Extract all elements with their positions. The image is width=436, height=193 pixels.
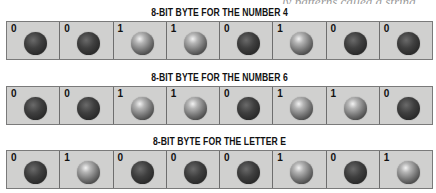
bit-ball-icon — [397, 97, 420, 120]
bit-value: 0 — [11, 89, 17, 99]
byte-caption: 8-BIT BYTE FOR THE NUMBER 4 — [36, 7, 403, 18]
bit-cell: 1 — [273, 87, 326, 124]
bit-value: 0 — [224, 89, 230, 99]
bit-ball-icon — [344, 161, 367, 184]
bit-value: 1 — [331, 89, 337, 99]
bit-value: 1 — [277, 153, 283, 163]
bit-ball-icon — [77, 32, 100, 55]
bit-cell: 0 — [7, 151, 60, 188]
bit-ball-icon — [131, 32, 154, 55]
bit-ball-icon — [131, 97, 154, 120]
bit-strip: 0 0 1 1 0 1 0 0 — [6, 21, 433, 60]
bit-ball-icon — [237, 32, 260, 55]
bit-value: 1 — [277, 24, 283, 34]
bit-ball-icon — [397, 161, 420, 184]
bit-cell: 1 — [114, 87, 167, 124]
bit-value: 1 — [277, 89, 283, 99]
bit-cell: 1 — [327, 87, 380, 124]
bit-cell: 0 — [327, 151, 380, 188]
bit-ball-icon — [24, 161, 47, 184]
bit-ball-icon — [77, 97, 100, 120]
byte-caption: 8-BIT BYTE FOR THE NUMBER 6 — [36, 72, 403, 83]
bit-value: 1 — [384, 153, 390, 163]
bit-cell: 1 — [273, 151, 326, 188]
bit-value: 0 — [331, 153, 337, 163]
bit-cell: 0 — [220, 87, 273, 124]
bit-cell: 1 — [167, 87, 220, 124]
bit-ball-icon — [397, 32, 420, 55]
bit-ball-icon — [184, 97, 207, 120]
bit-strip: 0 0 1 1 0 1 1 0 — [6, 86, 433, 125]
bit-value: 1 — [171, 24, 177, 34]
bit-value: 0 — [171, 153, 177, 163]
bit-value: 0 — [11, 153, 17, 163]
bit-value: 0 — [224, 153, 230, 163]
bit-cell: 1 — [167, 22, 220, 59]
bit-cell: 1 — [380, 151, 432, 188]
bit-cell: 0 — [167, 151, 220, 188]
bit-ball-icon — [184, 32, 207, 55]
bit-ball-icon — [24, 97, 47, 120]
bit-ball-icon — [131, 161, 154, 184]
bit-cell: 0 — [60, 87, 113, 124]
bit-value: 0 — [331, 24, 337, 34]
bit-cell: 0 — [380, 87, 432, 124]
bit-ball-icon — [290, 161, 313, 184]
bit-value: 1 — [118, 24, 124, 34]
bit-cell: 0 — [114, 151, 167, 188]
bit-cell: 0 — [220, 151, 273, 188]
bit-cell: 0 — [327, 22, 380, 59]
bit-strip: 0 1 0 0 0 1 0 1 — [6, 150, 433, 189]
bit-value: 0 — [64, 89, 70, 99]
bit-ball-icon — [344, 97, 367, 120]
bit-ball-icon — [344, 32, 367, 55]
bit-cell: 0 — [7, 87, 60, 124]
bit-ball-icon — [290, 97, 313, 120]
bit-value: 0 — [224, 24, 230, 34]
byte-caption: 8-BIT BYTE FOR THE LETTER E — [36, 136, 403, 147]
cutoff-body-text: ly patterns called a string — [282, 0, 432, 4]
bit-value: 1 — [64, 153, 70, 163]
bit-ball-icon — [184, 161, 207, 184]
bit-value: 1 — [118, 89, 124, 99]
bit-value: 0 — [384, 89, 390, 99]
bit-value: 1 — [171, 89, 177, 99]
bit-ball-icon — [237, 97, 260, 120]
bit-value: 0 — [64, 24, 70, 34]
bit-value: 0 — [384, 24, 390, 34]
bit-cell: 0 — [60, 22, 113, 59]
bit-value: 0 — [118, 153, 124, 163]
bit-cell: 1 — [60, 151, 113, 188]
bit-ball-icon — [24, 32, 47, 55]
bit-cell: 1 — [114, 22, 167, 59]
bit-ball-icon — [77, 161, 100, 184]
bit-cell: 1 — [273, 22, 326, 59]
bit-ball-icon — [290, 32, 313, 55]
bit-value: 0 — [11, 24, 17, 34]
bit-cell: 0 — [7, 22, 60, 59]
bit-cell: 0 — [380, 22, 432, 59]
bit-cell: 0 — [220, 22, 273, 59]
bit-ball-icon — [237, 161, 260, 184]
